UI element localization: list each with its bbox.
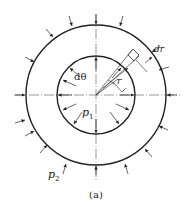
svg-text:p: p xyxy=(48,168,55,181)
figure-caption: (a) xyxy=(89,189,103,200)
r-label: r xyxy=(117,76,122,86)
dr-dimension-line xyxy=(136,60,147,72)
p2-label: p 2 xyxy=(48,168,59,183)
p1-label: p 1 xyxy=(82,106,93,121)
thick-cylinder-diagram: dθ dr r p 1 p 2 (a) xyxy=(0,0,193,207)
element-wedge xyxy=(96,49,152,95)
center-lines xyxy=(14,14,180,180)
svg-text:2: 2 xyxy=(55,175,59,183)
svg-text:p: p xyxy=(82,106,89,119)
differential-element xyxy=(128,49,139,61)
svg-text:1: 1 xyxy=(89,113,93,121)
dr-label: dr xyxy=(154,44,165,54)
dtheta-label: dθ xyxy=(74,71,86,82)
